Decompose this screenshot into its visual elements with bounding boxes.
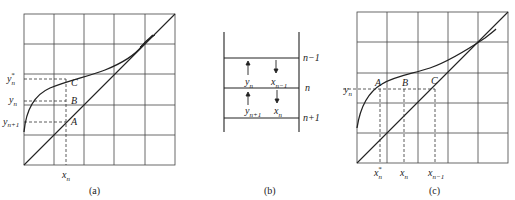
liquid-arrow-down-icon bbox=[274, 60, 278, 73]
panel-a-label-y-star-n: yn* bbox=[6, 71, 15, 87]
flow-label-y-n-plus-1: yn+1 bbox=[244, 105, 261, 119]
panel-c-point-b: B bbox=[402, 77, 408, 88]
panel-c-label-x-n: xn bbox=[399, 167, 408, 181]
panel-b: n−1 n n+1 yn xn−1 yn+1 xn (b) bbox=[224, 32, 320, 197]
vapor-arrow-up-icon bbox=[246, 61, 250, 75]
panel-c-point-a: A bbox=[374, 77, 382, 88]
panel-c-label-x-n-minus-1: xn−1 bbox=[427, 167, 444, 181]
tray-lines bbox=[224, 58, 299, 118]
panel-c: A B C yn xn* xn xn−1 (c) bbox=[343, 12, 508, 197]
panel-a-point-c: C bbox=[71, 77, 78, 88]
panel-a: C B A yn* yn yn+1 xn (a) bbox=[2, 14, 175, 197]
panel-a-point-b: B bbox=[71, 95, 77, 106]
diagram-canvas: C B A yn* yn yn+1 xn (a) n−1 n n+1 bbox=[0, 0, 515, 200]
panel-c-label-x-star-n: xn* bbox=[373, 165, 382, 181]
panel-c-point-c: C bbox=[431, 75, 438, 86]
panel-c-caption: (c) bbox=[429, 185, 440, 197]
liquid-arrow-down-icon-lower bbox=[275, 90, 279, 103]
panel-a-equilibrium-curve bbox=[24, 35, 153, 132]
flow-label-x-n: xn bbox=[273, 105, 282, 119]
vapor-arrow-up-icon-lower bbox=[246, 92, 250, 105]
stage-label-n-minus-1: n−1 bbox=[303, 52, 320, 63]
panel-a-label-y-n-plus-1: yn+1 bbox=[2, 116, 19, 129]
panel-a-label-y-n: yn bbox=[8, 94, 17, 108]
panel-a-point-a: A bbox=[70, 116, 78, 127]
panel-a-caption: (a) bbox=[89, 185, 100, 197]
panel-a-dashed-guides bbox=[24, 79, 66, 165]
panel-a-label-x-n: xn bbox=[61, 169, 70, 183]
column-walls bbox=[224, 32, 299, 132]
panel-c-label-y-n: yn bbox=[343, 84, 352, 98]
panel-b-caption: (b) bbox=[264, 185, 276, 197]
stage-label-n-plus-1: n+1 bbox=[303, 112, 320, 123]
stage-label-n: n bbox=[305, 82, 310, 93]
